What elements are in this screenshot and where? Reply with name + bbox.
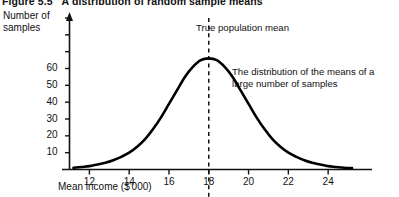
- y-axis-arrowhead: [66, 12, 73, 21]
- x-axis-tick-label: 16: [157, 176, 181, 187]
- axis-lines: [62, 12, 372, 170]
- y-axis-tick-label: 20: [34, 129, 58, 140]
- y-axis-tick-label: 40: [34, 96, 58, 107]
- y-axis-tick-label: 30: [34, 113, 58, 124]
- y-axis-tick-label: 60: [34, 62, 58, 73]
- distribution-curve: [73, 58, 352, 168]
- x-axis-tick-label: 18: [197, 176, 221, 187]
- x-axis-tick-label: 12: [77, 176, 101, 187]
- x-axis-tick-label: 20: [237, 176, 261, 187]
- plot-area: [0, 0, 399, 197]
- figure-container: Figure 5.5A distribution of random sampl…: [0, 0, 399, 197]
- y-axis-tick-label: 10: [34, 146, 58, 157]
- y-axis-tick-label: 50: [34, 79, 58, 90]
- x-axis-tick-label: 14: [117, 176, 141, 187]
- x-axis-tick-label: 22: [276, 176, 300, 187]
- x-axis-tick-label: 24: [316, 176, 340, 187]
